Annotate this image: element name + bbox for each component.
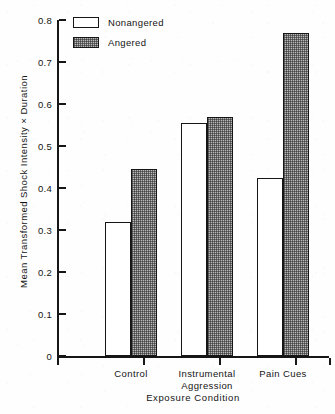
y-tick-label: 0.7 <box>38 57 52 68</box>
x-axis-spine <box>57 356 329 358</box>
y-tick-label: 0.8 <box>38 15 52 26</box>
y-tick-label: 0.1 <box>38 309 52 320</box>
x-tick-mark-1 <box>143 358 145 365</box>
bar-pain-cues-nonangered <box>257 178 283 357</box>
y-tick-mark <box>59 145 66 147</box>
y-tick-label: 0 <box>46 351 52 362</box>
y-axis-title: Mean Transformed Shock Intensity × Durat… <box>16 3 32 360</box>
y-tick-label: 0.5 <box>38 141 52 152</box>
bar-control-nonangered <box>105 222 131 356</box>
x-tick-mark-3 <box>295 358 297 365</box>
y-tick-mark <box>59 61 66 63</box>
x-tick-mark-4 <box>329 358 331 365</box>
y-tick-label: 0.3 <box>38 225 52 236</box>
bar-instrumental-aggression-angered <box>207 117 233 356</box>
x-tick-mark-2 <box>219 358 221 365</box>
x-axis-label-pain-cues: Pain Cues <box>238 368 328 380</box>
y-tick-mark <box>59 355 66 357</box>
bar-instrumental-aggression-nonangered <box>181 123 207 356</box>
y-tick-mark <box>59 229 66 231</box>
y-tick-label: 0.2 <box>38 267 52 278</box>
y-tick-mark <box>59 271 66 273</box>
y-tick-mark <box>59 187 66 189</box>
figure-bar-chart: Mean Transformed Shock Intensity × Durat… <box>0 0 335 414</box>
bar-pain-cues-angered <box>283 33 309 356</box>
x-tick-mark-0 <box>57 358 59 365</box>
y-axis-spine <box>57 20 59 358</box>
plot-area: 00.10.20.30.40.50.60.70.8 ControlInstrum… <box>57 20 329 358</box>
bar-control-angered <box>131 169 157 356</box>
y-tick-label: 0.6 <box>38 99 52 110</box>
y-tick-mark <box>59 313 66 315</box>
y-tick-mark <box>59 103 66 105</box>
x-axis-title: Exposure Condition <box>57 392 329 403</box>
y-tick-label: 0.4 <box>38 183 52 194</box>
y-tick-mark <box>59 19 66 21</box>
